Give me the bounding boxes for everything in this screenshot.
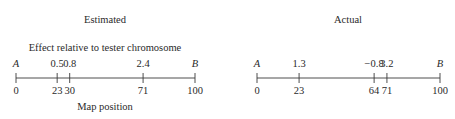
- effect-subtitle: Effect relative to tester chromosome: [29, 42, 182, 53]
- endpoint-a-label: A: [12, 58, 20, 69]
- map-position-label: Map position: [77, 101, 133, 112]
- map-position-tick: 30: [64, 85, 75, 96]
- map-position-tick: 23: [294, 85, 305, 96]
- estimated-panel: Estimated Effect relative to tester chro…: [12, 14, 203, 112]
- actual-panel: Actual 0231.364−0.8713.2100AB: [253, 14, 448, 96]
- estimated-axis: 0230.5300.8712.4100AB: [12, 58, 203, 96]
- effect-value: 0.8: [63, 58, 76, 69]
- effect-value: 1.3: [293, 58, 306, 69]
- effect-value: 3.2: [380, 58, 393, 69]
- map-position-tick: 0: [13, 85, 18, 96]
- map-position-tick: 64: [369, 85, 380, 96]
- map-position-tick: 71: [382, 85, 393, 96]
- estimated-title: Estimated: [84, 14, 127, 25]
- map-position-tick: 23: [52, 85, 63, 96]
- qtl-map-diagram: Estimated Effect relative to tester chro…: [0, 0, 455, 119]
- map-position-tick: 71: [138, 85, 149, 96]
- map-position-tick: 0: [254, 85, 259, 96]
- endpoint-b-label: B: [192, 58, 199, 69]
- map-position-tick: 100: [187, 85, 203, 96]
- actual-title: Actual: [334, 14, 362, 25]
- endpoint-b-label: B: [437, 58, 444, 69]
- endpoint-a-label: A: [253, 58, 261, 69]
- effect-value: 2.4: [137, 58, 151, 69]
- effect-value: 0.5: [51, 58, 64, 69]
- actual-axis: 0231.364−0.8713.2100AB: [253, 58, 448, 96]
- map-position-tick: 100: [432, 85, 448, 96]
